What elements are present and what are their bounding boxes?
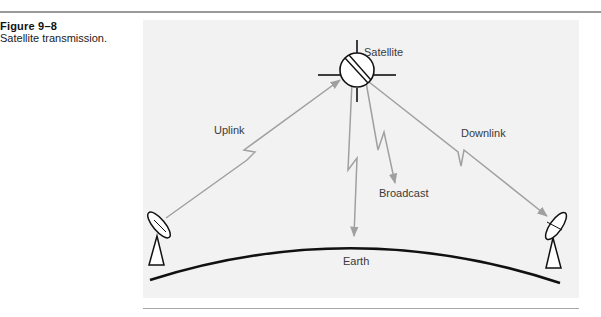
broadcast-label: Broadcast <box>379 187 429 199</box>
bottom-rule <box>143 308 579 309</box>
downlink-label: Downlink <box>461 127 506 139</box>
earth-broadcast-signal <box>348 82 357 236</box>
uplink-label: Uplink <box>214 124 245 136</box>
right-dish-icon <box>542 209 570 268</box>
left-dish-icon <box>144 209 174 265</box>
broadcast-signal <box>366 82 395 183</box>
earth-label: Earth <box>343 255 369 267</box>
satellite-label: Satellite <box>364 46 403 58</box>
uplink-signal <box>166 80 340 218</box>
satellite-diagram: Satellite Uplink Downlink Broadcast Eart… <box>0 0 601 317</box>
